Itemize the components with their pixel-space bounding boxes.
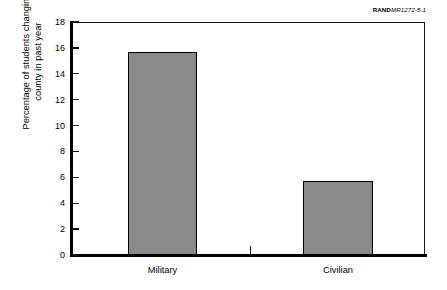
y-axis-title-line-2: county in past year — [33, 0, 45, 169]
y-axis-tick — [72, 203, 79, 204]
y-axis-tick — [72, 73, 79, 74]
y-axis-tick — [72, 151, 79, 152]
y-axis-tick — [72, 228, 79, 229]
y-axis-tick — [72, 254, 79, 255]
y-axis-tick-label: 14 — [44, 69, 65, 78]
y-axis-tick — [72, 21, 79, 22]
y-axis-tick-label: 18 — [44, 18, 65, 27]
figure-id-label: RANDMR1272-5.1 — [373, 7, 426, 13]
y-axis-tick — [72, 125, 79, 126]
y-axis-tick — [72, 177, 79, 178]
y-axis-tick-label: 16 — [44, 43, 65, 52]
y-axis-title: Percentage of students changing county i… — [21, 0, 44, 169]
y-axis-tick-label: 2 — [44, 225, 65, 234]
x-axis-line — [70, 254, 427, 257]
y-axis-title-line-1: Percentage of students changing — [21, 0, 33, 169]
rand-wordmark: RAND — [373, 6, 391, 13]
x-axis-center-tick — [250, 246, 251, 255]
x-axis-category-label-civilian: Civilian — [323, 266, 353, 275]
y-axis-tick-label: 6 — [44, 173, 65, 182]
y-axis-line — [70, 21, 73, 257]
y-axis-tick-label: 10 — [44, 121, 65, 130]
x-axis-category-label-military: Military — [148, 266, 177, 275]
bar-civilian — [303, 181, 373, 255]
y-axis-tick-label: 8 — [44, 147, 65, 156]
bar-military — [128, 52, 197, 255]
y-axis-tick-label: 0 — [44, 251, 65, 260]
document-code: MR1272-5.1 — [391, 6, 426, 13]
y-axis-tick — [72, 99, 79, 100]
y-axis-tick-label: 4 — [44, 199, 65, 208]
y-axis-tick — [72, 47, 79, 48]
y-axis-tick-label: 12 — [44, 95, 65, 104]
